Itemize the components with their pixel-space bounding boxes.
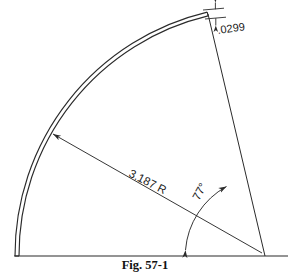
arc-outer-edge	[15, 12, 207, 256]
radial-line-right	[208, 14, 265, 256]
figure-container: .0299 3.187 R 77° Fig. 57-1	[0, 0, 288, 273]
figure-caption: Fig. 57-1	[122, 258, 169, 272]
radius-dimension-label: 3.187 R	[127, 167, 168, 196]
arc-inner-edge	[19, 16, 208, 256]
technical-drawing: .0299 3.187 R 77° Fig. 57-1	[0, 0, 288, 273]
thickness-dimension-label: .0299	[217, 20, 246, 36]
angle-dimension-label: 77°	[190, 181, 209, 202]
radius-leader-line	[53, 134, 262, 253]
thickness-extension-upper	[203, 8, 224, 10]
